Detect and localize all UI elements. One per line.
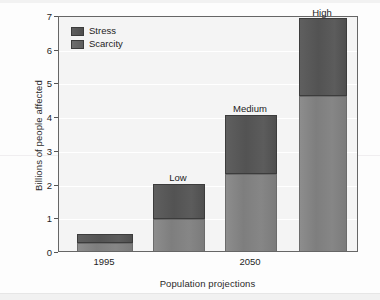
bar-label-high: High — [312, 7, 332, 18]
bar-label-medium: Medium — [233, 103, 267, 114]
bar-group-high[interactable] — [299, 18, 347, 251]
x-tick-label-2050: 2050 — [239, 256, 260, 267]
bar-group-medium[interactable] — [225, 115, 277, 252]
legend: Stress Scarcity — [71, 26, 123, 49]
y-tick-label-4: 4 — [30, 112, 52, 123]
bar-segment-scarcity[interactable] — [225, 174, 277, 252]
y-tick-label-1: 1 — [30, 213, 52, 224]
bar-segment-stress[interactable] — [225, 115, 277, 174]
y-tick-label-0: 0 — [30, 247, 52, 258]
bar-segment-scarcity[interactable] — [299, 96, 347, 251]
y-tick-label-3: 3 — [30, 145, 52, 156]
x-tick-label-1995: 1995 — [93, 256, 114, 267]
plot-area: Stress Scarcity — [58, 16, 358, 252]
bar-segment-stress[interactable] — [153, 184, 205, 219]
legend-swatch-scarcity-icon — [71, 40, 84, 49]
bar-segment-stress[interactable] — [77, 234, 133, 243]
scan-artifact-top — [0, 0, 380, 3]
y-tick-mark-0 — [54, 252, 58, 253]
y-axis-title: Billions of people affected — [33, 36, 44, 236]
legend-label-scarcity: Scarcity — [89, 39, 123, 49]
scan-artifact-bottom — [0, 293, 380, 300]
y-tick-label-6: 6 — [30, 44, 52, 55]
bar-group-low[interactable] — [153, 184, 205, 251]
bar-segment-scarcity[interactable] — [153, 219, 205, 251]
bar-group-1995[interactable] — [77, 234, 133, 252]
plot-inner: Stress Scarcity — [59, 17, 357, 251]
y-tick-label-5: 5 — [30, 78, 52, 89]
bar-label-low: Low — [169, 172, 186, 183]
x-axis-title: Population projections — [55, 278, 360, 289]
legend-swatch-stress-icon — [71, 27, 84, 36]
chart-figure: Billions of people affected 7 6 5 4 3 2 … — [0, 0, 380, 300]
legend-item-scarcity[interactable]: Scarcity — [71, 39, 123, 49]
legend-label-stress: Stress — [89, 26, 116, 36]
y-tick-label-7: 7 — [30, 11, 52, 22]
bar-segment-scarcity[interactable] — [77, 243, 133, 251]
y-tick-label-2: 2 — [30, 179, 52, 190]
legend-item-stress[interactable]: Stress — [71, 26, 123, 36]
bar-segment-stress[interactable] — [299, 18, 347, 96]
